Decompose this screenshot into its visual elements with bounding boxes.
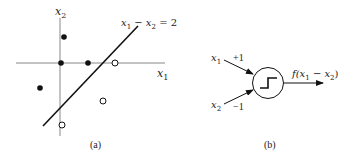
panel-a: x2 x1 x1 − x2 = 2 (a) — [16, 5, 177, 151]
input-x2-label: x2 — [211, 99, 221, 113]
filled-point — [61, 34, 67, 40]
filled-point — [85, 60, 91, 66]
open-point — [112, 60, 118, 66]
open-point — [59, 122, 65, 128]
x1-axis-label: x1 — [157, 67, 168, 82]
boundary-equation-label: x1 − x2 = 2 — [121, 17, 177, 31]
weight-minus-one: −1 — [233, 101, 244, 112]
filled-point — [37, 85, 43, 91]
filled-point — [58, 60, 64, 66]
panel-b: x1 +1 x2 −1 f(x1 − x2) (b) — [211, 52, 339, 151]
decision-boundary-line — [43, 26, 138, 126]
weight-plus-one: +1 — [233, 52, 244, 63]
open-point — [100, 98, 106, 104]
x2-axis-label: x2 — [55, 5, 66, 20]
figure: x2 x1 x1 − x2 = 2 (a) x1 +1 x2 −1 — [0, 0, 344, 160]
input-x1-label: x1 — [211, 52, 221, 66]
caption-b: (b) — [264, 139, 276, 151]
output-label: f(x1 − x2) — [291, 68, 339, 82]
caption-a: (a) — [90, 139, 101, 151]
